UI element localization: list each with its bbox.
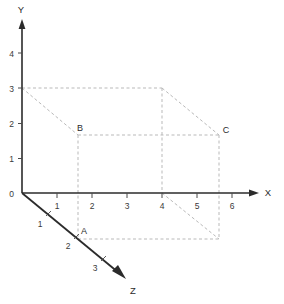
z-axis-group: 1 2 3 Z — [22, 193, 136, 296]
y-tick-label-3: 3 — [9, 84, 14, 94]
z-tick-label-2: 2 — [66, 241, 71, 251]
y-axis-group: 1 2 3 4 Y — [9, 4, 25, 193]
y-tick-label-4: 4 — [9, 49, 14, 59]
x-axis-group: 1 2 3 4 5 6 X — [22, 187, 272, 211]
x-tick-label-5: 5 — [195, 201, 200, 211]
x-axis-label: X — [265, 187, 272, 198]
point-label-a: A — [81, 226, 87, 236]
origin-label: 0 — [9, 189, 14, 199]
x-tick-label-6: 6 — [230, 201, 235, 211]
box-edge-top-left-diag — [22, 88, 78, 135]
z-axis-arrowhead — [112, 265, 126, 279]
z-axis-label: Z — [130, 285, 136, 296]
coordinate-diagram: 1 2 3 4 Y 1 2 3 4 5 6 X 0 — [0, 0, 284, 304]
x-tick-label-1: 1 — [55, 201, 60, 211]
y-tick-label-2: 2 — [9, 119, 14, 129]
y-tick-label-1: 1 — [9, 154, 14, 164]
box-edge-top-right-diag — [162, 88, 219, 135]
z-tick-label-3: 3 — [93, 263, 98, 273]
point-label-b: B — [77, 123, 83, 133]
x-axis-arrowhead — [249, 190, 259, 197]
box-edge-bottom-right-diag — [162, 193, 219, 239]
z-tick-label-1: 1 — [38, 219, 43, 229]
y-axis-arrowhead — [19, 19, 26, 29]
z-axis-line — [22, 193, 119, 273]
x-tick-label-3: 3 — [125, 201, 130, 211]
x-tick-label-4: 4 — [160, 201, 165, 211]
point-label-c: C — [223, 125, 230, 135]
x-tick-label-2: 2 — [90, 201, 95, 211]
diagram-canvas: 1 2 3 4 Y 1 2 3 4 5 6 X 0 — [0, 0, 284, 304]
y-axis-label: Y — [18, 4, 25, 15]
